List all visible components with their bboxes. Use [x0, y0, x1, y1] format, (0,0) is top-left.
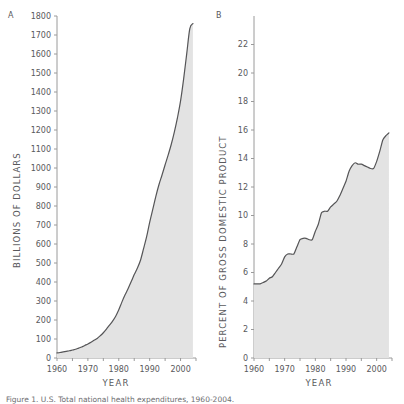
svg-text:1960: 1960	[244, 365, 264, 374]
svg-text:800: 800	[36, 202, 51, 211]
svg-text:600: 600	[36, 240, 51, 249]
svg-text:1300: 1300	[31, 107, 51, 116]
svg-text:1200: 1200	[31, 126, 51, 135]
svg-text:20: 20	[238, 69, 248, 78]
panel-a-x-axis-title: YEAR	[46, 378, 186, 388]
svg-text:18: 18	[238, 97, 248, 106]
svg-text:700: 700	[36, 221, 51, 230]
svg-text:6: 6	[243, 268, 248, 277]
panel-a: A BILLIONS OF DOLLARS YEAR 0100200300400…	[0, 0, 202, 402]
panel-b: B PERCENT OF GROSS DOMESTIC PRODUCT YEAR…	[202, 0, 404, 402]
svg-text:1800: 1800	[31, 12, 51, 21]
svg-text:1990: 1990	[336, 365, 356, 374]
svg-text:1500: 1500	[31, 69, 51, 78]
svg-text:22: 22	[238, 40, 248, 49]
svg-text:900: 900	[36, 183, 51, 192]
panel-b-x-axis-title: YEAR	[244, 378, 394, 388]
svg-text:2000: 2000	[170, 365, 190, 374]
svg-text:1700: 1700	[31, 31, 51, 40]
svg-text:100: 100	[36, 335, 51, 344]
svg-text:200: 200	[36, 316, 51, 325]
svg-text:1960: 1960	[47, 365, 67, 374]
svg-text:1000: 1000	[31, 164, 51, 173]
svg-text:400: 400	[36, 278, 51, 287]
svg-text:2000: 2000	[366, 365, 386, 374]
svg-text:1980: 1980	[109, 365, 129, 374]
svg-text:1980: 1980	[305, 365, 325, 374]
svg-text:14: 14	[238, 154, 248, 163]
svg-text:1400: 1400	[31, 88, 51, 97]
panel-b-plot: 024681012141618202219601970198019902000	[202, 0, 404, 376]
svg-text:16: 16	[238, 126, 248, 135]
svg-text:4: 4	[243, 297, 248, 306]
svg-text:2: 2	[243, 325, 248, 334]
svg-text:1990: 1990	[139, 365, 159, 374]
figure-caption: Figure 1. U.S. Total national health exp…	[6, 395, 398, 404]
svg-text:1100: 1100	[31, 145, 51, 154]
panel-a-plot: 0100200300400500600700800900100011001200…	[0, 0, 202, 376]
svg-text:1600: 1600	[31, 50, 51, 59]
svg-text:300: 300	[36, 297, 51, 306]
svg-text:0: 0	[243, 354, 248, 363]
svg-text:1970: 1970	[274, 365, 294, 374]
svg-text:8: 8	[243, 240, 248, 249]
svg-text:0: 0	[46, 354, 51, 363]
svg-text:1970: 1970	[78, 365, 98, 374]
svg-text:500: 500	[36, 259, 51, 268]
svg-text:10: 10	[238, 211, 248, 220]
svg-text:12: 12	[238, 183, 248, 192]
